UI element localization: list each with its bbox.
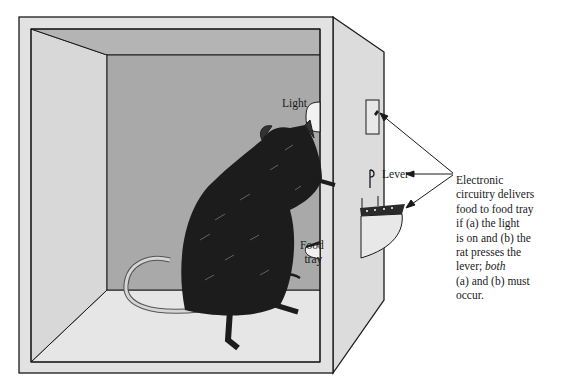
- light-switch: [366, 100, 379, 134]
- caption-line-3: food to food tray: [456, 202, 562, 216]
- lever-label: Lever: [382, 167, 409, 181]
- caption-line-4: if (a) the light: [456, 216, 562, 230]
- light-label: Light: [282, 96, 307, 110]
- caption-line-5: is on and (b) the: [456, 231, 562, 245]
- caption-line-9: occur.: [456, 288, 562, 302]
- box-right-side: [333, 17, 384, 373]
- caption-line-1: Electronic: [456, 173, 562, 187]
- caption-text: Electronic circuitry delivers food to fo…: [456, 173, 562, 303]
- caption-line-8: (a) and (b) must: [456, 274, 562, 288]
- food-tray-label: Food tray: [300, 238, 324, 266]
- annotation-arrows: [380, 113, 453, 208]
- caption-line-7: lever; both: [456, 259, 562, 273]
- caption-line-2: circuitry delivers: [456, 187, 562, 201]
- caption-line-6: rat presses the: [456, 245, 562, 259]
